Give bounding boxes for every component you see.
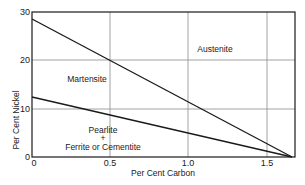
x-axis-ticks: 0 0.5 1.0 1.5 [31, 158, 273, 168]
austenite-boundary-line [32, 19, 292, 157]
grid [32, 12, 295, 157]
y-tick: 20 [20, 55, 30, 65]
y-tick: 10 [20, 104, 30, 114]
ferrite-cementite-label: Ferrite or Cementite [65, 142, 141, 152]
x-tick: 0.5 [104, 158, 117, 168]
x-tick: 0 [31, 158, 36, 168]
nickel-carbon-diagram: 30 20 10 0 0 0.5 1.0 1.5 Per Cent Carbon… [0, 0, 305, 185]
martensite-label: Martensite [67, 74, 107, 84]
x-tick: 1.5 [261, 158, 274, 168]
y-axis-ticks: 30 20 10 0 [20, 7, 30, 162]
y-tick: 30 [20, 7, 30, 17]
chart-svg: 30 20 10 0 0 0.5 1.0 1.5 Per Cent Carbon… [0, 0, 305, 185]
y-tick: 0 [25, 152, 30, 162]
y-axis-label: Per Cent Nickel [11, 90, 21, 149]
x-tick: 1.0 [182, 158, 195, 168]
plot-frame [32, 12, 295, 157]
austenite-label: Austenite [197, 44, 233, 54]
x-axis-label: Per Cent Carbon [131, 168, 195, 178]
